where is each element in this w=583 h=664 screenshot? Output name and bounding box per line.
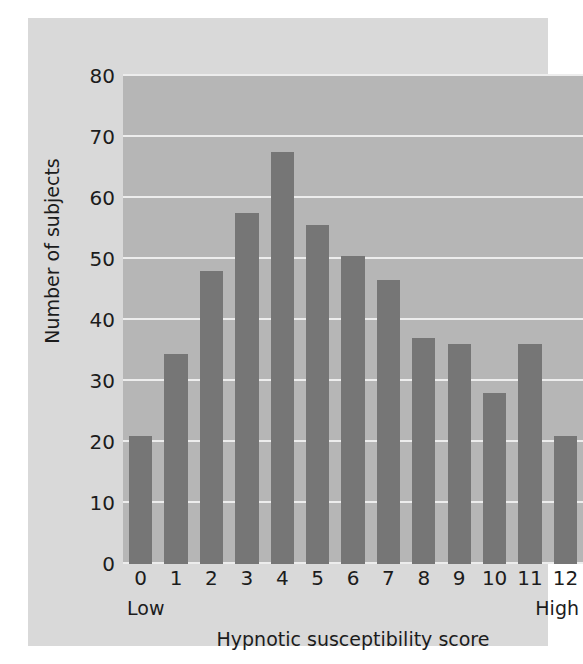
x-axis-tick-label: 2 <box>194 568 229 588</box>
x-axis-tick-label: 9 <box>442 568 477 588</box>
bar-slot <box>442 76 477 564</box>
y-axis-tick-label: 20 <box>90 432 115 452</box>
bar <box>235 213 258 564</box>
y-axis-ticks: 01020304050607080 <box>70 76 115 564</box>
bar-slot <box>229 76 264 564</box>
bar-slot <box>123 76 158 564</box>
bar-slot <box>158 76 193 564</box>
y-axis-tick-label: 40 <box>90 310 115 330</box>
bar-slot <box>371 76 406 564</box>
y-axis-tick-label: 30 <box>90 371 115 391</box>
chart-figure: 01020304050607080 Number of subjects 012… <box>0 0 583 664</box>
plot-area <box>123 76 583 564</box>
bar <box>341 256 364 564</box>
bar <box>412 338 435 564</box>
anchor-label-high: High <box>535 599 579 618</box>
y-axis-tick-label: 80 <box>90 66 115 86</box>
x-axis-tick-label: 5 <box>300 568 335 588</box>
y-axis-tick-label: 0 <box>102 554 115 574</box>
anchor-label-low: Low <box>127 599 164 618</box>
x-axis-tick-label: 6 <box>335 568 370 588</box>
x-axis-tick-label: 3 <box>229 568 264 588</box>
bar-series <box>123 76 583 564</box>
x-axis-tick-label: 12 <box>548 568 583 588</box>
x-axis-title: Hypnotic susceptibility score <box>123 628 583 650</box>
x-axis-tick-label: 1 <box>158 568 193 588</box>
bar <box>377 280 400 564</box>
x-axis-tick-label: 7 <box>371 568 406 588</box>
bar-slot <box>335 76 370 564</box>
x-axis-anchor-labels: Low High <box>123 599 583 618</box>
figure-card: 01020304050607080 Number of subjects 012… <box>28 18 548 646</box>
bar-slot <box>300 76 335 564</box>
bar <box>554 436 577 564</box>
x-axis-ticks: 0123456789101112 <box>123 568 583 588</box>
bar-slot <box>512 76 547 564</box>
x-axis-tick-label: 10 <box>477 568 512 588</box>
y-axis-tick-label: 10 <box>90 493 115 513</box>
bar-slot <box>548 76 583 564</box>
x-axis-tick-label: 8 <box>406 568 441 588</box>
x-axis-tick-label: 11 <box>512 568 547 588</box>
y-axis-tick-label: 60 <box>90 188 115 208</box>
bar-slot <box>265 76 300 564</box>
y-axis-tick-label: 50 <box>90 249 115 269</box>
bar <box>448 344 471 564</box>
bar <box>271 152 294 564</box>
bar-slot <box>477 76 512 564</box>
y-axis-title: Number of subjects <box>41 151 63 351</box>
y-axis-tick-label: 70 <box>90 127 115 147</box>
bar <box>129 436 152 564</box>
bar <box>306 225 329 564</box>
bar <box>483 393 506 564</box>
bar-slot <box>406 76 441 564</box>
bar-slot <box>194 76 229 564</box>
x-axis-tick-label: 4 <box>265 568 300 588</box>
bar <box>164 354 187 564</box>
x-axis-tick-label: 0 <box>123 568 158 588</box>
bar <box>200 271 223 564</box>
bar <box>518 344 541 564</box>
